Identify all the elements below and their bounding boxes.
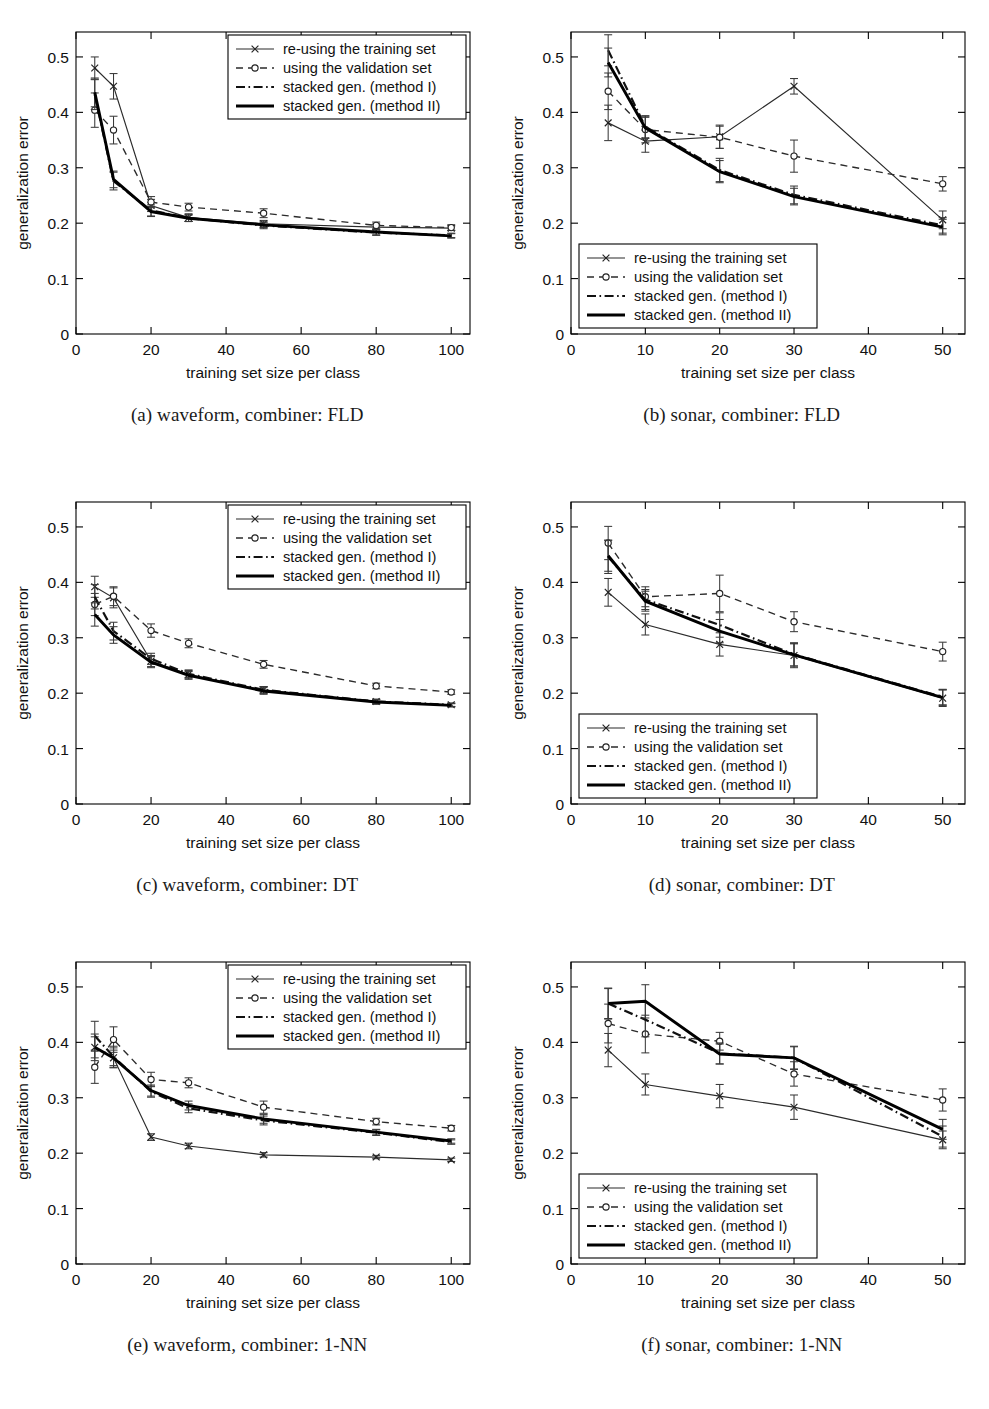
series-3 bbox=[604, 540, 947, 705]
panel-cell-b: 0102030405000.10.20.30.40.5training set … bbox=[495, 18, 989, 488]
x-tick-label: 80 bbox=[368, 811, 386, 828]
figure-root: 02040608010000.10.20.30.40.5training set… bbox=[0, 0, 989, 1409]
y-tick-label: 0.3 bbox=[48, 160, 70, 177]
legend-label: stacked gen. (method II) bbox=[283, 98, 440, 114]
subcaption-b: (b) sonar, combiner: FLD bbox=[643, 404, 840, 426]
legend-label: re-using the training set bbox=[634, 250, 787, 266]
y-tick-label: 0.3 bbox=[48, 1090, 70, 1107]
y-tick-label: 0.4 bbox=[542, 104, 564, 121]
chart-panel-e: 02040608010000.10.20.30.40.5training set… bbox=[12, 948, 482, 1328]
x-tick-label: 80 bbox=[368, 341, 386, 358]
x-tick-label: 0 bbox=[566, 811, 575, 828]
x-axis-label: training set size per class bbox=[681, 1294, 855, 1311]
y-tick-label: 0.2 bbox=[542, 215, 564, 232]
subcaption-d: (d) sonar, combiner: DT bbox=[649, 874, 835, 896]
x-tick-label: 20 bbox=[143, 811, 161, 828]
x-tick-label: 40 bbox=[859, 341, 877, 358]
x-tick-label: 30 bbox=[785, 1271, 803, 1288]
y-tick-label: 0.4 bbox=[48, 574, 70, 591]
series-4 bbox=[604, 48, 947, 235]
legend-label: stacked gen. (method II) bbox=[283, 1028, 440, 1044]
x-tick-label: 50 bbox=[934, 1271, 952, 1288]
y-tick-label: 0.4 bbox=[48, 1034, 70, 1051]
subcaption-a: (a) waveform, combiner: FLD bbox=[131, 404, 364, 426]
figure-row-1: 02040608010000.10.20.30.40.5training set… bbox=[0, 18, 989, 488]
y-tick-label: 0.2 bbox=[542, 1145, 564, 1162]
x-tick-label: 0 bbox=[72, 341, 81, 358]
x-tick-label: 80 bbox=[368, 1271, 386, 1288]
x-tick-label: 50 bbox=[934, 811, 952, 828]
x-tick-label: 50 bbox=[934, 341, 952, 358]
chart-panel-c: 02040608010000.10.20.30.40.5training set… bbox=[12, 488, 482, 868]
series-2 bbox=[91, 587, 455, 695]
x-tick-label: 20 bbox=[711, 811, 729, 828]
series-1 bbox=[604, 79, 947, 229]
panel-cell-e: 02040608010000.10.20.30.40.5training set… bbox=[0, 948, 495, 1408]
x-tick-label: 10 bbox=[636, 811, 654, 828]
x-tick-label: 30 bbox=[785, 811, 803, 828]
legend: re-using the training setusing the valid… bbox=[579, 244, 817, 328]
legend: re-using the training setusing the valid… bbox=[228, 35, 466, 119]
panel-cell-c: 02040608010000.10.20.30.40.5training set… bbox=[0, 488, 495, 948]
x-tick-label: 10 bbox=[636, 341, 654, 358]
subcaption-e: (e) waveform, combiner: 1-NN bbox=[127, 1334, 367, 1356]
y-axis-label: generalization error bbox=[509, 116, 526, 250]
y-tick-label: 0.3 bbox=[48, 630, 70, 647]
legend-label: stacked gen. (method I) bbox=[634, 1218, 787, 1234]
x-tick-label: 20 bbox=[711, 1271, 729, 1288]
x-axis-label: training set size per class bbox=[681, 364, 855, 381]
y-axis-label: generalization error bbox=[14, 586, 31, 720]
x-tick-label: 20 bbox=[143, 341, 161, 358]
chart-panel-a: 02040608010000.10.20.30.40.5training set… bbox=[12, 18, 482, 398]
y-tick-label: 0.5 bbox=[542, 49, 564, 66]
legend-label: stacked gen. (method I) bbox=[634, 758, 787, 774]
y-tick-label: 0 bbox=[61, 1256, 70, 1273]
y-tick-label: 0.2 bbox=[542, 685, 564, 702]
figure-row-2: 02040608010000.10.20.30.40.5training set… bbox=[0, 488, 989, 948]
y-tick-label: 0.1 bbox=[48, 1201, 70, 1218]
y-tick-label: 0.3 bbox=[542, 160, 564, 177]
y-tick-label: 0.3 bbox=[542, 1090, 564, 1107]
legend-label: re-using the training set bbox=[634, 1180, 787, 1196]
x-tick-label: 60 bbox=[293, 341, 311, 358]
y-tick-label: 0 bbox=[555, 796, 564, 813]
legend-label: using the validation set bbox=[634, 1199, 782, 1215]
x-tick-label: 100 bbox=[439, 341, 465, 358]
x-tick-label: 40 bbox=[859, 811, 877, 828]
series-4 bbox=[604, 540, 947, 705]
y-axis-label: generalization error bbox=[509, 1046, 526, 1180]
legend-label: stacked gen. (method I) bbox=[283, 1009, 436, 1025]
series-3 bbox=[604, 988, 947, 1147]
y-tick-label: 0.2 bbox=[48, 215, 70, 232]
series-1 bbox=[91, 1037, 455, 1163]
legend-label: stacked gen. (method I) bbox=[283, 79, 436, 95]
x-tick-label: 0 bbox=[72, 811, 81, 828]
y-tick-label: 0.1 bbox=[542, 741, 564, 758]
x-tick-label: 0 bbox=[566, 1271, 575, 1288]
y-tick-label: 0 bbox=[61, 796, 70, 813]
legend-label: using the validation set bbox=[634, 739, 782, 755]
series-1 bbox=[604, 578, 947, 706]
y-tick-label: 0.1 bbox=[542, 1201, 564, 1218]
y-tick-label: 0.1 bbox=[542, 271, 564, 288]
legend-label: using the validation set bbox=[283, 990, 431, 1006]
x-tick-label: 40 bbox=[218, 341, 236, 358]
y-tick-label: 0 bbox=[555, 326, 564, 343]
x-tick-label: 0 bbox=[566, 341, 575, 358]
panel-cell-d: 0102030405000.10.20.30.40.5training set … bbox=[495, 488, 989, 948]
y-tick-label: 0.1 bbox=[48, 741, 70, 758]
legend-label: stacked gen. (method II) bbox=[634, 307, 791, 323]
x-tick-label: 30 bbox=[785, 341, 803, 358]
series-4 bbox=[91, 1034, 455, 1143]
x-tick-label: 20 bbox=[143, 1271, 161, 1288]
legend: re-using the training setusing the valid… bbox=[579, 714, 817, 798]
legend-label: stacked gen. (method I) bbox=[634, 288, 787, 304]
y-tick-label: 0.2 bbox=[48, 685, 70, 702]
legend-label: re-using the training set bbox=[283, 511, 436, 527]
y-tick-label: 0.5 bbox=[542, 519, 564, 536]
legend-label: re-using the training set bbox=[283, 41, 436, 57]
y-tick-label: 0.5 bbox=[542, 979, 564, 996]
x-tick-label: 60 bbox=[293, 1271, 311, 1288]
legend: re-using the training setusing the valid… bbox=[579, 1174, 817, 1258]
chart-panel-f: 0102030405000.10.20.30.40.5training set … bbox=[507, 948, 977, 1328]
